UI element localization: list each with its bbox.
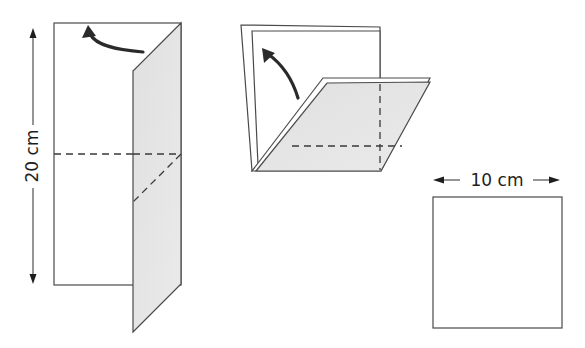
height-dimension: 20 cm <box>22 28 42 284</box>
result-square <box>433 197 562 328</box>
arrow-right-icon <box>549 177 560 184</box>
arrow-left-icon <box>433 177 444 184</box>
folding-diagram: 20 cm <box>0 0 585 348</box>
step-3-figure: 10 cm <box>433 170 562 328</box>
width-label: 10 cm <box>471 170 524 190</box>
height-label: 20 cm <box>22 130 42 183</box>
width-dimension: 10 cm <box>433 170 560 190</box>
step-1-figure: 20 cm <box>22 23 181 332</box>
arrow-down-icon <box>30 274 37 284</box>
step-2-figure <box>241 25 430 171</box>
arrow-up-icon <box>30 28 37 38</box>
folded-strip <box>133 23 181 332</box>
